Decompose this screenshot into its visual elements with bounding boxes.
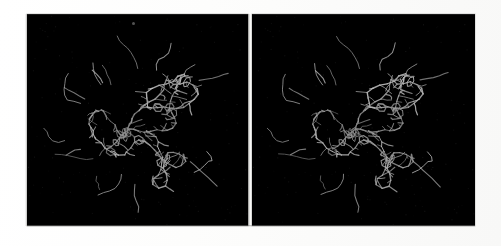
- bond-layer-right: [253, 14, 475, 226]
- bond-layer-left: [28, 14, 248, 226]
- stereo-figure: [0, 0, 501, 246]
- molecule-wireframe-right: [252, 14, 475, 226]
- stereo-panel-left: [27, 14, 248, 226]
- molecule-wireframe-left: [27, 14, 248, 226]
- dust-speck-artifact: [132, 22, 135, 25]
- figure-caption: [27, 230, 475, 244]
- stereo-panel-right: [252, 14, 475, 226]
